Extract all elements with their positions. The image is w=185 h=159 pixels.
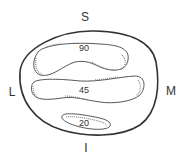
region-lower-label: 20 — [79, 118, 89, 128]
label-medial: M — [166, 84, 176, 98]
region-middle-label: 45 — [79, 85, 89, 95]
label-superior: S — [81, 10, 89, 24]
region-upper-label: 90 — [79, 43, 89, 53]
label-lateral: L — [9, 85, 16, 99]
label-inferior: I — [84, 141, 87, 155]
cross-section-diagram: 90 45 20 S L M I — [0, 0, 185, 159]
